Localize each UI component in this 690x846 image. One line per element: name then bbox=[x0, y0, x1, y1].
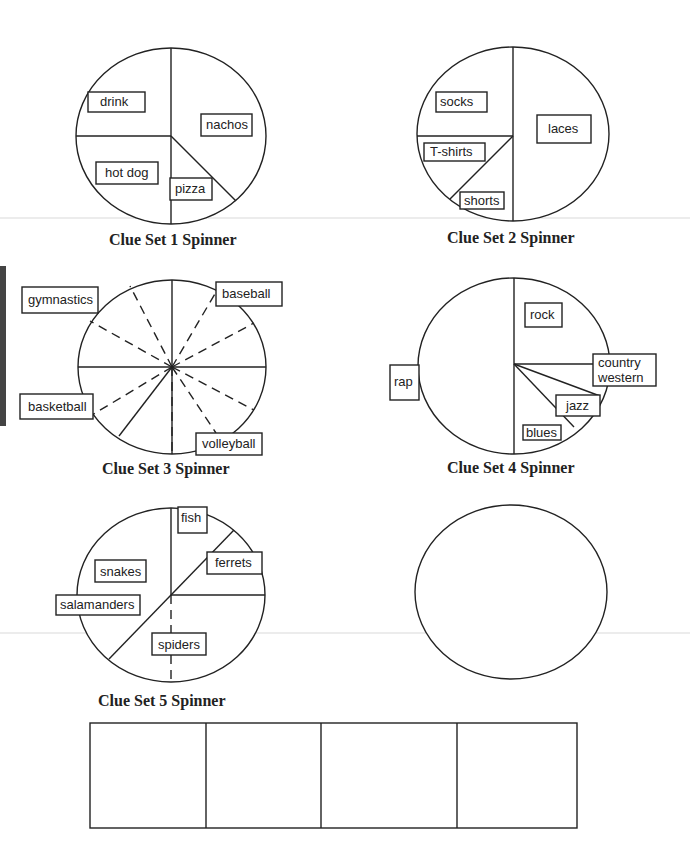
label-country: country bbox=[598, 355, 641, 370]
label-ferrets: ferrets bbox=[215, 555, 252, 570]
spinner-clue-set-2: socks laces T-shirts shorts bbox=[417, 47, 609, 221]
worksheet-page: drink nachos hot dog pizza socks laces T… bbox=[0, 0, 690, 846]
spinner-clue-set-1: drink nachos hot dog pizza bbox=[76, 48, 266, 224]
label-rap: rap bbox=[394, 374, 413, 389]
label-basketball: basketball bbox=[28, 399, 87, 414]
label-shorts: shorts bbox=[464, 193, 500, 208]
answer-boxes bbox=[90, 723, 577, 828]
label-nachos: nachos bbox=[206, 117, 248, 132]
label-gymnastics: gymnastics bbox=[28, 292, 94, 307]
caption-clue-set-5: Clue Set 5 Spinner bbox=[98, 692, 226, 710]
caption-clue-set-1: Clue Set 1 Spinner bbox=[109, 231, 237, 249]
label-salamanders: salamanders bbox=[60, 597, 135, 612]
label-drink: drink bbox=[100, 94, 129, 109]
blank-spinner bbox=[415, 505, 607, 679]
label-jazz: jazz bbox=[565, 398, 589, 413]
label-hot-dog: hot dog bbox=[105, 165, 148, 180]
label-western: western bbox=[597, 370, 644, 385]
label-baseball: baseball bbox=[222, 286, 271, 301]
spinner-clue-set-5: fish snakes ferrets salamanders spiders bbox=[56, 507, 265, 682]
label-spiders: spiders bbox=[158, 637, 200, 652]
caption-clue-set-4: Clue Set 4 Spinner bbox=[447, 459, 575, 477]
caption-clue-set-2: Clue Set 2 Spinner bbox=[447, 229, 575, 247]
label-volleyball: volleyball bbox=[202, 436, 256, 451]
label-rock: rock bbox=[530, 307, 555, 322]
label-snakes: snakes bbox=[100, 564, 142, 579]
label-blues: blues bbox=[526, 425, 558, 440]
label-laces: laces bbox=[548, 121, 579, 136]
spinner-clue-set-3: gymnastics baseball basketball volleybal… bbox=[20, 280, 282, 455]
label-fish: fish bbox=[181, 510, 201, 525]
caption-clue-set-3: Clue Set 3 Spinner bbox=[102, 460, 230, 478]
label-t-shirts: T-shirts bbox=[430, 144, 473, 159]
label-socks: socks bbox=[440, 94, 474, 109]
label-pizza: pizza bbox=[175, 181, 206, 196]
spinner-clue-set-4: rap rock country western jazz blues bbox=[390, 278, 656, 454]
